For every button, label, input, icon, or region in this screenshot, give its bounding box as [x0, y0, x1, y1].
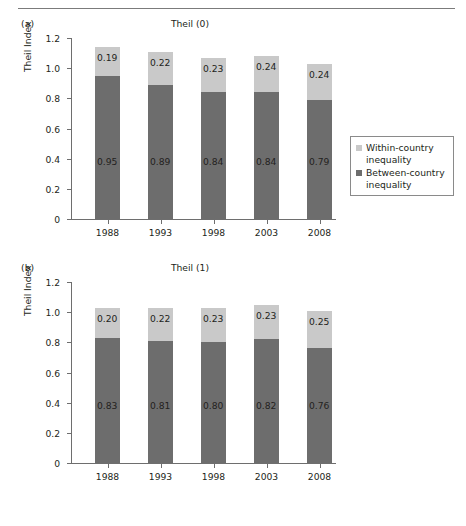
bar-segment-between-country: 0.83 — [95, 338, 120, 463]
x-tick-label-1998: 1998 — [184, 471, 244, 482]
y-tick-label: 0 — [54, 214, 60, 225]
legend-swatch-between-icon — [356, 170, 362, 176]
bar-value-label-between: 0.95 — [97, 156, 117, 167]
y-tick-label: 0.4 — [45, 153, 60, 164]
y-tick-label: 0 — [54, 458, 60, 469]
bar-segment-within-country: 0.20 — [95, 308, 120, 338]
legend-swatch-within-icon — [356, 145, 362, 151]
bar-segment-between-country: 0.82 — [254, 339, 279, 463]
x-tick-label-1998: 1998 — [184, 227, 244, 238]
y-tick-1: 0.2 — [67, 433, 71, 434]
bar-value-label-between: 0.79 — [309, 156, 329, 167]
bar-segment-within-country: 0.24 — [254, 56, 279, 92]
x-tick-label-2008: 2008 — [290, 227, 350, 238]
top-horizontal-rule — [18, 8, 455, 9]
x-tick-label-1988: 1988 — [78, 471, 138, 482]
x-tick-0 — [108, 220, 109, 224]
x-tick-4 — [320, 464, 321, 468]
bar-value-label-within: 0.22 — [150, 57, 170, 68]
y-tick-label: 1.0 — [45, 307, 60, 318]
bar-segment-between-country: 0.84 — [254, 92, 279, 219]
y-tick-3: 0.6 — [67, 373, 71, 374]
bar-segment-between-country: 0.81 — [148, 341, 173, 463]
bar-value-label-between: 0.83 — [97, 400, 117, 411]
x-tick-label-2003: 2003 — [237, 227, 297, 238]
x-tick-label-1993: 1993 — [131, 227, 191, 238]
y-tick-2: 0.4 — [67, 159, 71, 160]
legend-item-within-a: Within-countryinequality — [356, 142, 449, 165]
plot-area-b: 00.20.40.60.81.01.20.830.2019880.810.221… — [71, 282, 336, 464]
y-tick-2: 0.4 — [67, 403, 71, 404]
legend-label-within: Within-countryinequality — [366, 142, 434, 165]
bar-segment-between-country: 0.79 — [307, 100, 332, 219]
bar-segment-between-country: 0.76 — [307, 348, 332, 463]
x-tick-0 — [108, 464, 109, 468]
chart-panel-theil-0: (a) Theil (0) Theil Index 00.20.40.60.81… — [0, 18, 466, 263]
bar-segment-within-country: 0.24 — [307, 64, 332, 100]
bar-value-label-between: 0.80 — [203, 400, 223, 411]
legend-a: Within-countryinequality Between-country… — [350, 136, 454, 196]
bar-value-label-within: 0.23 — [203, 313, 223, 324]
bar-segment-between-country: 0.95 — [95, 76, 120, 219]
x-tick-label-2008: 2008 — [290, 471, 350, 482]
y-tick-label: 1.0 — [45, 63, 60, 74]
bar-segment-within-country: 0.22 — [148, 308, 173, 341]
y-tick-label: 0.2 — [45, 427, 60, 438]
panel-title-b: Theil (1) — [0, 262, 380, 273]
bar-value-label-within: 0.24 — [309, 69, 329, 80]
legend-label-between: Between-countryinequality — [366, 167, 445, 190]
bar-value-label-between: 0.81 — [150, 400, 170, 411]
x-tick-2 — [214, 464, 215, 468]
bar-segment-between-country: 0.80 — [201, 342, 226, 463]
y-tick-6: 1.2 — [67, 282, 71, 283]
x-tick-4 — [320, 220, 321, 224]
bar-segment-within-country: 0.19 — [95, 47, 120, 76]
y-tick-label: 0.4 — [45, 397, 60, 408]
x-axis-line-a — [71, 219, 336, 220]
bar-value-label-between: 0.89 — [150, 156, 170, 167]
x-axis-line-b — [71, 463, 336, 464]
y-axis-line-a — [71, 38, 72, 220]
y-tick-label: 1.2 — [45, 33, 60, 44]
bar-segment-within-country: 0.23 — [201, 308, 226, 343]
y-tick-0: 0 — [67, 219, 71, 220]
y-tick-4: 0.8 — [67, 98, 71, 99]
x-tick-label-2003: 2003 — [237, 471, 297, 482]
bar-value-label-within: 0.24 — [256, 61, 276, 72]
bar-segment-between-country: 0.84 — [201, 92, 226, 219]
bar-segment-between-country: 0.89 — [148, 85, 173, 219]
bar-value-label-between: 0.84 — [256, 156, 276, 167]
y-tick-5: 1.0 — [67, 68, 71, 69]
x-tick-3 — [267, 220, 268, 224]
bar-segment-within-country: 0.22 — [148, 52, 173, 85]
y-tick-6: 1.2 — [67, 38, 71, 39]
bar-value-label-within: 0.23 — [203, 63, 223, 74]
bar-value-label-within: 0.19 — [97, 52, 117, 63]
y-tick-label: 1.2 — [45, 277, 60, 288]
y-axis-label-b: Theil Index — [22, 266, 33, 316]
y-tick-4: 0.8 — [67, 342, 71, 343]
y-tick-label: 0.8 — [45, 93, 60, 104]
chart-panel-theil-1: (b) Theil (1) Theil Index 00.20.40.60.81… — [0, 262, 466, 517]
bar-value-label-within: 0.22 — [150, 313, 170, 324]
bar-segment-within-country: 0.23 — [254, 305, 279, 340]
x-tick-1 — [161, 220, 162, 224]
bar-value-label-between: 0.82 — [256, 400, 276, 411]
legend-item-between-a: Between-countryinequality — [356, 167, 449, 190]
y-tick-label: 0.6 — [45, 123, 60, 134]
bar-value-label-between: 0.76 — [309, 400, 329, 411]
bar-segment-within-country: 0.25 — [307, 311, 332, 349]
figure-page: (a) Theil (0) Theil Index 00.20.40.60.81… — [0, 0, 466, 526]
y-tick-0: 0 — [67, 463, 71, 464]
y-tick-3: 0.6 — [67, 129, 71, 130]
panel-title-a: Theil (0) — [0, 18, 380, 29]
y-axis-label-a: Theil Index — [22, 22, 33, 72]
x-tick-label-1988: 1988 — [78, 227, 138, 238]
bar-value-label-within: 0.23 — [256, 310, 276, 321]
y-tick-label: 0.6 — [45, 367, 60, 378]
y-tick-5: 1.0 — [67, 312, 71, 313]
bar-value-label-within: 0.25 — [309, 316, 329, 327]
y-axis-line-b — [71, 282, 72, 464]
plot-area-a: 00.20.40.60.81.01.20.950.1919880.890.221… — [71, 38, 336, 220]
x-tick-2 — [214, 220, 215, 224]
